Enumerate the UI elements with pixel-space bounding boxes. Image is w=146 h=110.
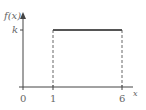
tick-label-0: 0 [20,94,26,104]
tick-label-1: 1 [50,94,56,104]
y-axis-label: f(x) [4,11,21,21]
uniform-distribution-chart: f(x) k 0 1 6 x [0,0,146,110]
k-label: k [12,25,18,35]
tick-label-6: 6 [119,94,125,104]
x-axis-label: x [133,89,138,99]
